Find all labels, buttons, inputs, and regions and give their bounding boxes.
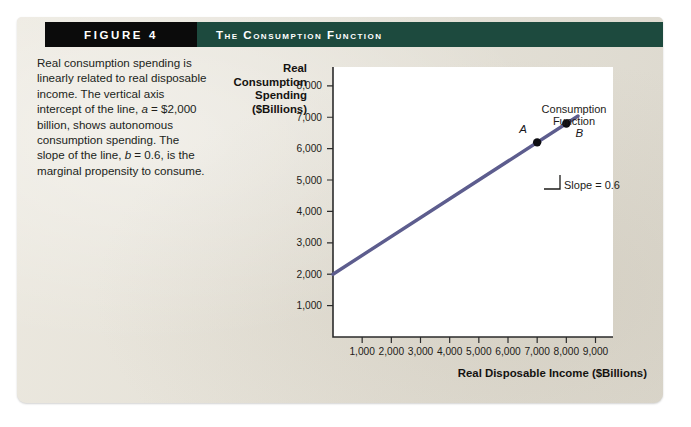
y-tick-label: 4,000: [297, 206, 323, 217]
figure-number-block: FIGURE 4: [45, 22, 197, 47]
x-tick-label: 6,000: [495, 346, 521, 357]
x-tick-label: 3,000: [408, 346, 434, 357]
y-tick-label: 5,000: [297, 175, 323, 186]
plot-background: [333, 67, 613, 337]
x-tick-label: 9,000: [583, 346, 609, 357]
data-point-a: [533, 138, 541, 146]
axis-lines: [333, 67, 613, 337]
x-tick-label: 5,000: [466, 346, 492, 357]
curve-label-line1: Consumption: [542, 103, 607, 115]
data-point-b: [562, 119, 570, 127]
curve-label-line2: Function: [553, 115, 595, 127]
y-axis-title-text: Real Consumption Spending ($Billions): [234, 62, 307, 115]
function-line: [333, 116, 578, 274]
y-tick-label: 3,000: [297, 237, 323, 248]
figure-title-label: The Consumption Function: [216, 29, 383, 41]
figure-title-block: The Consumption Function: [197, 22, 663, 47]
x-tick-label: 2,000: [379, 346, 405, 357]
data-point-label-b: B: [575, 127, 583, 139]
data-points: AB: [518, 119, 583, 146]
x-axis-title-text: Real Disposable Income ($Billions): [458, 367, 647, 379]
data-point-label-a: A: [518, 123, 527, 135]
y-tick-label: 1,000: [297, 300, 323, 311]
x-tick-label: 7,000: [524, 346, 550, 357]
y-tick-label: 2,000: [297, 269, 323, 280]
figure-header: FIGURE 4 The Consumption Function: [45, 22, 663, 47]
slope-label: Slope = 0.6: [564, 179, 620, 191]
x-tick-label: 8,000: [554, 346, 580, 357]
figure-number-label: FIGURE 4: [84, 29, 158, 41]
x-tick-label: 4,000: [437, 346, 463, 357]
x-axis-ticks: 1,0002,0003,0004,0005,0006,0007,0008,000…: [349, 337, 608, 357]
slope-bracket-icon: [544, 175, 560, 189]
figure-caption: Real consumption spending is linearly re…: [37, 55, 209, 178]
y-axis-title: Real Consumption Spending ($Billions): [215, 62, 307, 116]
x-axis-title: Real Disposable Income ($Billions): [447, 367, 647, 381]
y-tick-label: 6,000: [297, 143, 323, 154]
consumption-function-line: [333, 116, 578, 274]
figure-card: FIGURE 4 The Consumption Function Real c…: [17, 17, 663, 403]
x-tick-label: 1,000: [349, 346, 375, 357]
